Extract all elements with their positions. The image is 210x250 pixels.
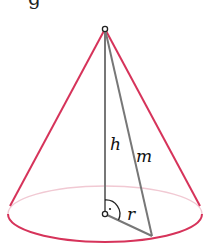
apex-point <box>102 26 107 31</box>
right-angle-dot <box>109 208 111 210</box>
label-h: h <box>110 134 121 154</box>
cone-left-side <box>10 29 105 206</box>
label-r: r <box>127 204 136 224</box>
label-m: m <box>136 146 152 166</box>
base-front-arc <box>8 214 202 242</box>
cone-diagram: h m r <box>0 0 210 250</box>
cone-right-side <box>105 29 200 206</box>
base-center-point <box>102 211 107 216</box>
